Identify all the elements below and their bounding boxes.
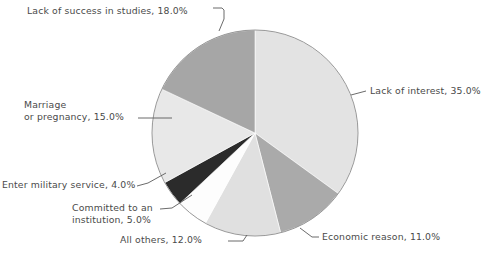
slice-label-committed-to-an-institution: Committed to an institution, 5.0% [72, 202, 153, 225]
pie-slices [152, 30, 358, 236]
leader-line-lack-success [213, 8, 224, 31]
leader-line-lack-interest [351, 91, 366, 95]
pie-chart-figure: Lack of success in studies, 18.0% Marria… [0, 0, 494, 264]
slice-label-lack-of-interest: Lack of interest, 35.0% [370, 85, 481, 97]
slice-label-marriage-or-pregnancy: Marriage or pregnancy, 15.0% [24, 99, 124, 122]
leader-line-all-others [228, 235, 247, 241]
slice-label-all-others: All others, 12.0% [120, 234, 202, 246]
leader-line-military [137, 173, 166, 186]
slice-label-enter-military-service: Enter military service, 4.0% [2, 179, 135, 191]
slice-label-economic-reason: Economic reason, 11.0% [322, 231, 440, 243]
slice-label-lack-of-success-in-studies: Lack of success in studies, 18.0% [27, 5, 188, 17]
leader-line-economic [300, 228, 319, 237]
